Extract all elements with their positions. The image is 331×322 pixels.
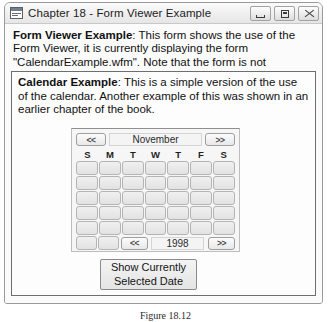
calendar-day-cell[interactable] [76,161,98,175]
calendar-day-cell[interactable] [122,176,144,190]
calendar-day-cell[interactable] [122,221,144,235]
calendar-day-cell[interactable] [213,161,235,175]
calendar-day-cell[interactable] [213,206,235,220]
calendar-day-header: S [212,149,235,160]
prev-month-button[interactable]: << [76,133,106,146]
maximize-icon [281,10,289,18]
calendar-control: << November >> SMTWTFS << 1998 >> [71,128,240,252]
next-month-button[interactable]: >> [205,133,235,146]
current-year-label: 1998 [151,237,204,250]
calendar-day-headers: SMTWTFS [76,149,235,160]
calendar-day-cell[interactable] [99,206,121,220]
calendar-day-cell[interactable] [167,191,189,205]
calendar-day-header: M [99,149,122,160]
close-button[interactable] [298,6,319,21]
calendar-day-cell[interactable] [76,191,98,205]
calendar-day-cell[interactable] [99,176,121,190]
calendar-day-cell[interactable] [190,161,212,175]
calendar-day-cell[interactable] [167,206,189,220]
calendar-day-cell[interactable] [99,161,121,175]
calendar-description: Calendar Example: This is a simple versi… [18,76,309,117]
calendar-day-cell[interactable] [76,236,97,250]
next-year-button[interactable]: >> [208,237,235,250]
calendar-day-cell[interactable] [167,221,189,235]
application-window: Chapter 18 - Form Viewer Example Form Vi… [4,2,323,304]
calendar-day-cell[interactable] [122,161,144,175]
calendar-day-header: F [190,149,213,160]
calendar-month-nav: << November >> [76,132,235,147]
calendar-day-cell[interactable] [213,191,235,205]
form-viewer-panel: Calendar Example: This is a simple versi… [11,71,316,296]
intro-lead: Form Viewer Example [13,29,132,41]
calendar-day-cell[interactable] [190,221,212,235]
calendar-day-cell[interactable] [145,191,167,205]
minimize-button[interactable] [250,6,271,21]
form-window-icon [10,7,23,19]
current-month-label: November [109,133,202,146]
calendar-day-cell[interactable] [167,161,189,175]
calendar-day-header: S [76,149,99,160]
calendar-day-header: T [121,149,144,160]
calendar-description-lead: Calendar Example [18,76,118,88]
prev-year-button[interactable]: << [121,237,148,250]
calendar-day-cell[interactable] [190,176,212,190]
calendar-day-cell[interactable] [213,176,235,190]
calendar-day-cell[interactable] [190,191,212,205]
calendar-day-cell[interactable] [98,236,119,250]
calendar-day-cell[interactable] [122,206,144,220]
calendar-day-cell[interactable] [76,206,98,220]
figure-container: Chapter 18 - Form Viewer Example Form Vi… [0,0,331,322]
calendar-day-cell[interactable] [76,221,98,235]
window-title: Chapter 18 - Form Viewer Example [28,7,250,19]
calendar-day-cell[interactable] [122,191,144,205]
show-date-line-1: Show Currently [111,261,186,275]
calendar-day-cell[interactable] [145,221,167,235]
calendar-day-cell[interactable] [99,191,121,205]
calendar-day-header: T [167,149,190,160]
window-controls [250,6,319,21]
show-date-line-2: Selected Date [114,275,183,289]
calendar-day-cell[interactable] [99,221,121,235]
calendar-day-cell[interactable] [213,221,235,235]
client-area: Form Viewer Example: This form shows the… [5,24,322,303]
minimize-icon [256,15,265,18]
calendar-day-cell[interactable] [145,176,167,190]
calendar-day-cell[interactable] [167,176,189,190]
calendar-year-nav: << 1998 >> [76,236,235,250]
calendar-day-cell[interactable] [145,206,167,220]
figure-caption: Figure 18.12 [0,310,331,321]
close-icon [304,10,314,18]
calendar-day-cell[interactable] [145,161,167,175]
title-bar: Chapter 18 - Form Viewer Example [5,3,322,24]
maximize-button[interactable] [274,6,295,21]
show-selected-date-button[interactable]: Show Currently Selected Date [100,259,197,290]
calendar-day-cell[interactable] [76,176,98,190]
calendar-day-cell[interactable] [190,206,212,220]
calendar-day-grid [76,161,235,235]
calendar-day-header: W [144,149,167,160]
